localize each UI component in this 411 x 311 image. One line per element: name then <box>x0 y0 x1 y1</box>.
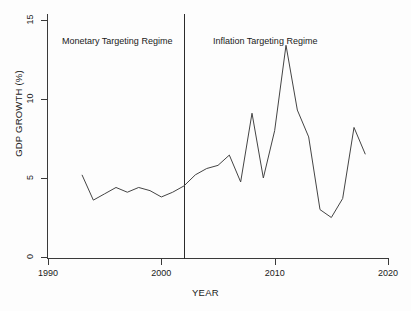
y-tick-mark <box>41 257 47 258</box>
x-axis-title: YEAR <box>0 287 411 298</box>
x-tick-label: 2000 <box>146 268 176 278</box>
x-tick-label: 1990 <box>33 268 63 278</box>
y-tick-mark <box>41 178 47 179</box>
gdp-growth-line-chart: 051015 1990200020102020 GDP GROWTH (%) Y… <box>0 0 411 311</box>
y-tick-label: 15 <box>26 12 35 28</box>
x-tick-mark <box>161 259 162 265</box>
y-tick-label: 0 <box>26 249 35 265</box>
x-tick-mark <box>388 259 389 265</box>
x-tick-mark <box>275 259 276 265</box>
series-plot-area <box>0 0 411 311</box>
annotation-monetary-targeting-regime: Monetary Targeting Regime <box>62 36 172 46</box>
x-tick-label: 2010 <box>260 268 290 278</box>
y-tick-label: 10 <box>26 91 35 107</box>
y-tick-mark <box>41 99 47 100</box>
y-tick-mark <box>41 20 47 21</box>
gdp-growth-line <box>82 45 365 217</box>
y-axis-line <box>47 14 48 259</box>
x-tick-mark <box>48 259 49 265</box>
x-tick-label: 2020 <box>373 268 403 278</box>
annotation-inflation-targeting-regime: Inflation Targeting Regime <box>213 36 317 46</box>
x-axis-line <box>47 258 389 259</box>
y-tick-label: 5 <box>26 170 35 186</box>
regime-change-divider <box>184 14 185 259</box>
y-axis-title: GDP GROWTH (%) <box>13 54 24 174</box>
